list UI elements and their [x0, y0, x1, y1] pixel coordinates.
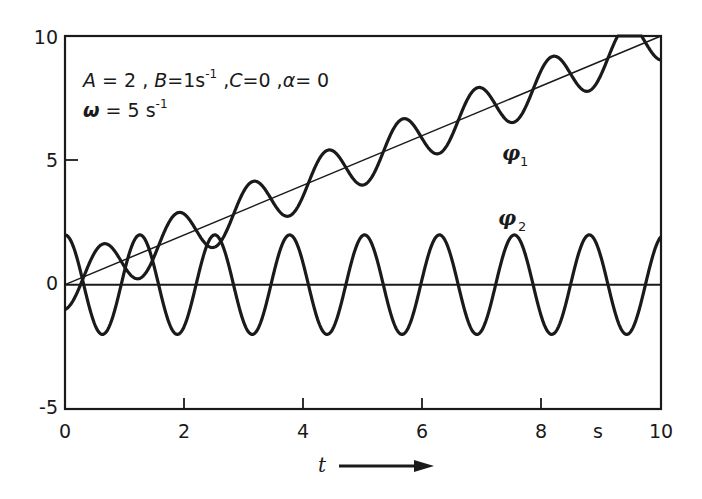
param-A-symbol: A: [81, 69, 96, 91]
phi1-label: φ1: [502, 141, 528, 169]
param-omega-value: = 5 s: [100, 99, 156, 121]
phi2-label: φ2: [498, 206, 526, 234]
y-tick-label-0: 0: [46, 272, 58, 294]
param-A-value: = 2 ,: [96, 69, 154, 91]
svg-text:A = 2 , B=1s-1 ,C=0 ,α= 0: A = 2 , B=1s-1 ,C=0 ,α= 0: [81, 67, 329, 91]
x-tick-label-6: 6: [416, 420, 428, 442]
param-omega-exponent: -1: [156, 97, 168, 111]
x-tick-label-2: 2: [178, 420, 190, 442]
param-B-exponent: -1: [205, 67, 217, 81]
chart: 10 5 0 -5 0 2 4 6 8 s 10 t A = 2 , B=1s-…: [0, 0, 702, 499]
param-omega-symbol: ω: [83, 99, 100, 121]
x-tick-label-0: 0: [59, 420, 71, 442]
y-tick-label-neg5: -5: [39, 396, 58, 418]
x-axis-arrow-icon: [339, 460, 434, 472]
y-tick-label-5: 5: [46, 149, 58, 171]
param-C-value: =0 ,: [243, 69, 283, 91]
x-tick-label-4: 4: [297, 420, 309, 442]
param-alpha-symbol: α: [283, 69, 296, 91]
y-tick-label-10: 10: [34, 26, 58, 48]
svg-text:ω = 5 s-1: ω = 5 s-1: [83, 97, 168, 121]
x-tick-label-10: 10: [649, 420, 673, 442]
param-C-symbol: C: [229, 69, 243, 91]
x-axis-label: t: [318, 453, 327, 477]
plot-frame: [65, 36, 661, 409]
parameters-annotation: A = 2 , B=1s-1 ,C=0 ,α= 0 ω = 5 s-1: [81, 67, 329, 121]
param-alpha-value: = 0: [295, 69, 329, 91]
x-tick-label-8: 8: [535, 420, 547, 442]
x-unit-label: s: [593, 420, 603, 442]
param-C-sep: ,: [217, 69, 229, 91]
param-B-value: =1s: [167, 69, 205, 91]
param-B-symbol: B: [154, 69, 167, 91]
x-ticks: [184, 398, 541, 409]
